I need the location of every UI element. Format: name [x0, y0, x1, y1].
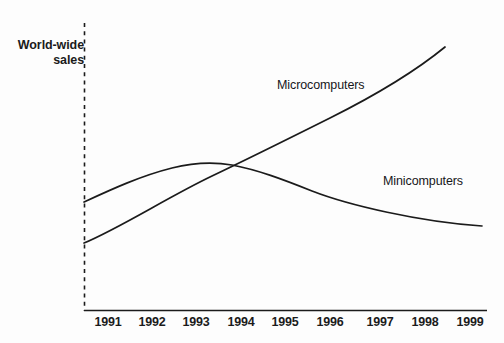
x-tick-label-1991: 1991	[86, 315, 130, 329]
x-tick-label-1999: 1999	[448, 315, 492, 329]
y-axis-title-line-2: sales	[53, 53, 84, 67]
x-axis-tick-labels: 1991 1992 1993 1994 1995 1996 1997 1998 …	[0, 315, 504, 335]
x-tick-label-1997: 1997	[358, 315, 402, 329]
x-tick-label-1994: 1994	[219, 315, 263, 329]
x-tick-label-1992: 1992	[130, 315, 174, 329]
y-axis-title-line-1: World-wide	[18, 38, 84, 52]
series-label-minicomputers: Minicomputers	[383, 174, 463, 188]
x-tick-label-1993: 1993	[174, 315, 218, 329]
series-line-minicomputers	[84, 163, 482, 226]
y-axis-title: World-widesales	[6, 38, 84, 68]
x-tick-label-1998: 1998	[403, 315, 447, 329]
x-tick-label-1996: 1996	[308, 315, 352, 329]
chart-container: World-widesales Microcomputers Minicompu…	[0, 0, 504, 343]
series-label-microcomputers: Microcomputers	[277, 78, 365, 92]
x-tick-label-1995: 1995	[263, 315, 307, 329]
